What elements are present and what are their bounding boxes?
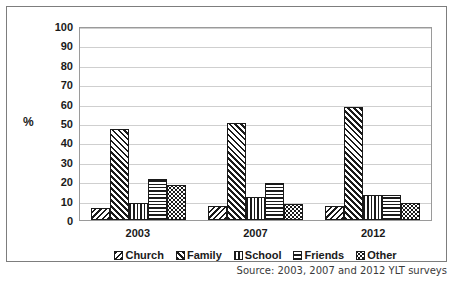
legend-swatch-church-icon — [114, 251, 123, 260]
legend-item-other[interactable]: Other — [356, 250, 396, 261]
bar-other-2012 — [401, 203, 420, 220]
bar-group-2003 — [91, 28, 186, 220]
legend-swatch-school-icon — [234, 251, 243, 260]
y-axis-tick-0: 0 — [41, 216, 73, 227]
bar-church-2003 — [91, 208, 110, 220]
bar-church-2007 — [208, 206, 227, 220]
legend-label-family: Family — [187, 250, 222, 261]
x-axis-tick-2003: 2003 — [90, 227, 185, 239]
bar-group-2007 — [208, 28, 303, 220]
bar-friends-2003 — [148, 179, 167, 220]
bar-school-2012 — [363, 195, 382, 220]
chart-legend: ChurchFamilySchoolFriendsOther — [79, 250, 432, 261]
legend-item-family[interactable]: Family — [176, 250, 222, 261]
x-axis-tick-2007: 2007 — [208, 227, 303, 239]
plot-area — [79, 27, 432, 221]
legend-label-school: School — [245, 250, 282, 261]
legend-label-other: Other — [367, 250, 396, 261]
legend-swatch-friends-icon — [293, 251, 302, 260]
y-axis-tick-90: 90 — [41, 41, 73, 52]
legend-item-church[interactable]: Church — [114, 250, 164, 261]
bar-friends-2007 — [265, 183, 284, 220]
bar-school-2003 — [129, 203, 148, 220]
legend-item-school[interactable]: School — [234, 250, 282, 261]
bar-church-2012 — [325, 206, 344, 220]
y-axis-tick-20: 20 — [41, 177, 73, 188]
source-note: Source: 2003, 2007 and 2012 YLT surveys — [237, 265, 447, 276]
legend-swatch-family-icon — [176, 251, 185, 260]
y-axis-tick-70: 70 — [41, 80, 73, 91]
y-axis-tick-30: 30 — [41, 157, 73, 168]
bar-family-2012 — [344, 107, 363, 220]
x-axis-tick-2012: 2012 — [326, 227, 421, 239]
y-axis-tick-40: 40 — [41, 138, 73, 149]
y-axis-tick-100: 100 — [41, 22, 73, 33]
y-axis-tick-50: 50 — [41, 119, 73, 130]
x-axis-tick-labels: 200320072012 — [79, 227, 432, 239]
bar-other-2003 — [167, 185, 186, 220]
legend-label-church: Church — [125, 250, 164, 261]
y-axis-title: % — [23, 115, 34, 129]
bar-friends-2012 — [382, 195, 401, 220]
bar-groups — [80, 28, 431, 220]
bar-school-2007 — [246, 197, 265, 220]
legend-label-friends: Friends — [304, 250, 344, 261]
chart-figure: % 1009080706050403020100 200320072012 Ch… — [6, 6, 447, 262]
bar-family-2003 — [110, 129, 129, 220]
legend-item-friends[interactable]: Friends — [293, 250, 344, 261]
legend-swatch-other-icon — [356, 251, 365, 260]
y-axis-tick-80: 80 — [41, 60, 73, 71]
y-axis-tick-60: 60 — [41, 99, 73, 110]
bar-family-2007 — [227, 123, 246, 220]
bar-other-2007 — [284, 204, 303, 220]
y-axis-tick-labels: 1009080706050403020100 — [41, 21, 73, 221]
bar-group-2012 — [325, 28, 420, 220]
y-axis-tick-10: 10 — [41, 196, 73, 207]
